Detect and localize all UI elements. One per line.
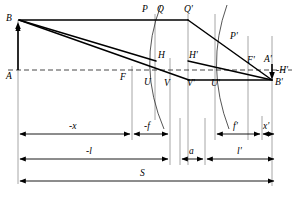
label-point-B-prime: B'	[275, 78, 283, 88]
label-point-neg-H-prime: -H'	[276, 66, 288, 76]
ray-to-principal-plane-H	[19, 20, 156, 61]
label-point-F: F	[120, 73, 126, 83]
label-point-P: P	[142, 5, 148, 15]
label-point-A-prime: A'	[264, 55, 272, 65]
label-point-U: U	[144, 78, 151, 88]
label-dim-neg-f: -f	[144, 122, 150, 132]
label-dim-a: a	[189, 147, 194, 157]
label-dim-f-prime: f'	[233, 122, 238, 132]
label-point-H: H	[158, 51, 165, 61]
label-point-P-prime: P'	[230, 32, 238, 42]
label-point-H-prime: H'	[189, 51, 198, 61]
label-dim-neg-x: -x	[69, 122, 76, 132]
label-point-B: B	[6, 14, 12, 24]
label-dim-x-prime: x'	[263, 122, 269, 132]
emergent-rays	[188, 20, 272, 80]
label-point-U-prime: U'	[211, 79, 220, 89]
object-arrow-head	[15, 22, 21, 29]
optical-diagram: B A F P Q Q' H H' U V V' U' P' F' A' B' …	[0, 0, 297, 197]
diagram-canvas	[0, 0, 297, 197]
label-point-V: V	[164, 79, 170, 89]
label-point-Q-prime: Q'	[184, 5, 193, 15]
label-dim-l-prime: l'	[237, 147, 242, 157]
label-point-V-prime: V'	[187, 79, 195, 89]
label-dim-neg-l: -l	[86, 147, 92, 157]
label-point-F-prime: F'	[247, 56, 255, 66]
label-dim-S: S	[140, 169, 145, 179]
label-point-Q: Q	[157, 5, 164, 15]
label-point-A: A	[6, 72, 12, 82]
surface-right-arc	[216, 5, 229, 129]
